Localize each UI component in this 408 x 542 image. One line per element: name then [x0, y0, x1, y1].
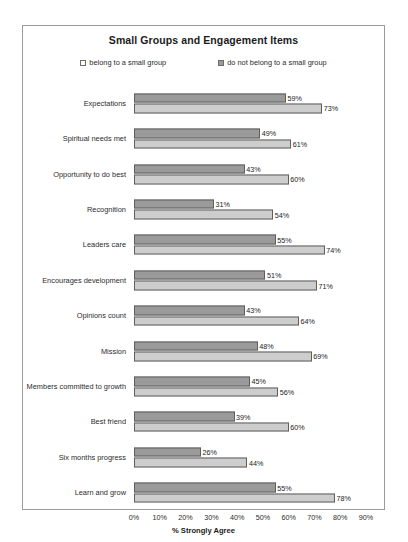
bar[interactable]	[134, 377, 250, 387]
bar-value-label: 48%	[259, 341, 273, 350]
category-label: Best friend	[23, 418, 126, 427]
bar-group: 73%	[134, 104, 366, 114]
chart-category-row: Recognition31%54%	[23, 192, 384, 227]
bar-group: 55%	[134, 483, 366, 493]
bar-group: 55%	[134, 235, 366, 245]
x-axis-tick-label: 40%	[230, 513, 244, 522]
bar-value-label: 39%	[236, 412, 250, 421]
bar[interactable]	[134, 306, 245, 316]
bar[interactable]	[134, 458, 247, 468]
bar-group: 69%	[134, 352, 366, 362]
bar[interactable]	[134, 483, 276, 493]
bar-group: 43%	[134, 306, 366, 316]
bar-value-label: 64%	[300, 316, 314, 325]
plot-area: Expectations59%73%Spiritual needs met49%…	[23, 86, 384, 511]
bar-value-label: 44%	[249, 458, 263, 467]
category-label: Recognition	[23, 206, 126, 215]
chart-category-row: Opportunity to do best43%60%	[23, 157, 384, 192]
category-label: Leaders care	[23, 241, 126, 250]
bar-value-label: 74%	[326, 246, 340, 255]
bar-group: 26%	[134, 447, 366, 457]
chart-category-row: Opinions count43%64%	[23, 299, 384, 334]
bar[interactable]	[134, 270, 265, 280]
bar[interactable]	[134, 139, 291, 149]
bar-group: 71%	[134, 281, 366, 291]
category-bars: 43%64%	[134, 305, 366, 328]
bar-group: 56%	[134, 387, 366, 397]
bar[interactable]	[134, 447, 201, 457]
bar[interactable]	[134, 235, 276, 245]
legend-label-belong: belong to a small group	[89, 58, 166, 67]
chart-legend: belong to a small group do not belong to…	[23, 58, 384, 67]
bar[interactable]	[134, 412, 235, 422]
bar[interactable]	[134, 493, 335, 503]
chart-category-row: Best friend39%60%	[23, 405, 384, 440]
bar-value-label: 71%	[319, 281, 333, 290]
bar[interactable]	[134, 316, 299, 326]
chart-category-row: Mission48%69%	[23, 334, 384, 369]
bar[interactable]	[134, 352, 312, 362]
category-bars: 59%73%	[134, 92, 366, 115]
category-bars: 43%60%	[134, 163, 366, 186]
chart-title: Small Groups and Engagement Items	[23, 34, 384, 46]
x-axis-tick-label: 10%	[153, 513, 167, 522]
bar[interactable]	[134, 164, 245, 174]
chart-category-row: Spiritual needs met49%61%	[23, 121, 384, 156]
bar[interactable]	[134, 93, 286, 103]
category-label: Mission	[23, 347, 126, 356]
category-bars: 39%60%	[134, 411, 366, 434]
category-label: Encourages development	[23, 276, 126, 285]
bar-value-label: 54%	[275, 210, 289, 219]
bar-value-label: 55%	[277, 235, 291, 244]
bar-value-label: 31%	[215, 200, 229, 209]
x-axis-tick-label: 30%	[204, 513, 218, 522]
legend-item-do-not-belong: do not belong to a small group	[218, 58, 326, 67]
bar-group: 78%	[134, 493, 366, 503]
chart-category-row: Six months progress26%44%	[23, 440, 384, 475]
x-axis: 0%10%20%30%40%50%60%70%80%90%	[134, 513, 366, 525]
category-bars: 51%71%	[134, 269, 366, 292]
bar-group: 39%	[134, 412, 366, 422]
legend-item-belong: belong to a small group	[80, 58, 166, 67]
bar-value-label: 55%	[277, 483, 291, 492]
bar[interactable]	[134, 175, 289, 185]
bar-group: 43%	[134, 164, 366, 174]
bar[interactable]	[134, 129, 260, 139]
category-bars: 55%74%	[134, 234, 366, 257]
bar[interactable]	[134, 341, 258, 351]
x-axis-tick-label: 0%	[129, 513, 139, 522]
bar-value-label: 60%	[290, 423, 304, 432]
bar[interactable]	[134, 387, 278, 397]
bar-group: 61%	[134, 139, 366, 149]
bar-value-label: 43%	[246, 306, 260, 315]
bar-group: 64%	[134, 316, 366, 326]
legend-label-do-not-belong: do not belong to a small group	[227, 58, 326, 67]
category-bars: 31%54%	[134, 198, 366, 221]
bar-group: 60%	[134, 175, 366, 185]
x-axis-title: % Strongly Agree	[23, 526, 384, 535]
bar-value-label: 61%	[293, 139, 307, 148]
category-bars: 45%56%	[134, 376, 366, 399]
bar[interactable]	[134, 210, 273, 220]
bar[interactable]	[134, 245, 325, 255]
bar-value-label: 49%	[262, 129, 276, 138]
category-label: Expectations	[23, 99, 126, 108]
bar[interactable]	[134, 422, 289, 432]
category-label: Members committed to growth	[23, 383, 126, 392]
x-axis-tick-label: 20%	[178, 513, 192, 522]
bar-group: 54%	[134, 210, 366, 220]
bar[interactable]	[134, 104, 322, 114]
bar[interactable]	[134, 281, 317, 291]
chart-category-row: Expectations59%73%	[23, 86, 384, 121]
bar-value-label: 59%	[288, 93, 302, 102]
category-label: Six months progress	[23, 454, 126, 463]
bar-group: 31%	[134, 199, 366, 209]
chart-category-row: Learn and grow55%78%	[23, 476, 384, 511]
bar[interactable]	[134, 199, 214, 209]
legend-swatch-icon-belong	[80, 60, 86, 66]
category-label: Opinions count	[23, 312, 126, 321]
bar-group: 59%	[134, 93, 366, 103]
category-bars: 26%44%	[134, 446, 366, 469]
legend-swatch-icon-do-not-belong	[218, 60, 224, 66]
x-axis-tick-label: 80%	[333, 513, 347, 522]
